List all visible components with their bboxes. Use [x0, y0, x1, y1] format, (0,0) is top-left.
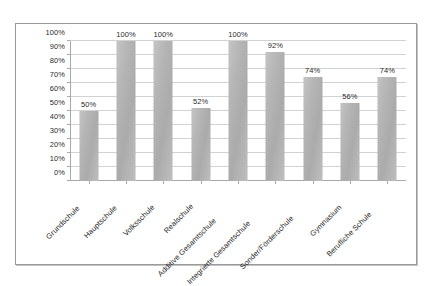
y-axis-tick-label: 70%	[50, 70, 65, 79]
x-axis-tick-mark	[89, 181, 90, 184]
y-axis-tick-label: 80%	[50, 56, 65, 65]
bar-slot: 100%Hauptschule	[107, 41, 144, 181]
x-axis-tick-mark	[238, 181, 239, 184]
bar-value-label: 56%	[342, 92, 357, 101]
bar-value-label: 52%	[193, 97, 208, 106]
bar-value-label: 100%	[154, 30, 174, 39]
y-axis-tick-label: 40%	[50, 112, 65, 121]
bar[interactable]	[116, 41, 135, 181]
bar-slot: 56%Gymnasium	[331, 41, 368, 181]
y-axis-tick-label: 0%	[54, 168, 65, 177]
x-axis-category-label-text: Realschule	[162, 202, 195, 235]
bar-slot: 100%Additive Gesamtschule	[219, 41, 256, 181]
x-axis-tick-mark	[201, 181, 202, 184]
x-axis-tick-mark	[275, 181, 276, 184]
bar-slot: 74%Berufliche Schule	[369, 41, 406, 181]
x-axis-category-label-text: Hauptschule	[82, 204, 119, 241]
bar-slot: 100%Volksschule	[145, 41, 182, 181]
y-axis-tick-label: 10%	[50, 154, 65, 163]
x-axis-tick-mark	[350, 181, 351, 184]
bar[interactable]	[266, 52, 285, 181]
bar-slot: 52%Realschule	[182, 41, 219, 181]
bar-value-label: 74%	[380, 66, 395, 75]
bar[interactable]	[340, 103, 359, 181]
bar[interactable]	[79, 111, 98, 181]
y-axis-tick-label: 90%	[50, 42, 65, 51]
bar[interactable]	[378, 77, 397, 181]
y-axis-tick-label: 20%	[50, 140, 65, 149]
bar-value-label: 74%	[305, 66, 320, 75]
plot-area: 100%90%80%70%60%50%40%30%20%10%0% 50%Gru…	[70, 41, 406, 181]
x-axis-tick-mark	[163, 181, 164, 184]
bar[interactable]	[228, 41, 247, 181]
x-axis-category-label-text: Volksschule	[122, 203, 157, 238]
bar-value-label: 100%	[116, 30, 136, 39]
bar-value-label: 92%	[268, 41, 283, 50]
x-axis-category-label-text: Gymnasium	[308, 203, 343, 238]
bar-value-label: 100%	[228, 30, 248, 39]
x-axis-category-label-text: Grundschule	[44, 204, 81, 241]
chart-card: 100%90%80%70%60%50%40%30%20%10%0% 50%Gru…	[15, 23, 417, 265]
bar-slot: 50%Grundschule	[70, 41, 107, 181]
y-axis-tick-label: 100%	[45, 28, 65, 37]
bar-value-label: 50%	[81, 100, 96, 109]
bar[interactable]	[303, 77, 322, 181]
x-axis-category-label-text: Integrierte Gesamtschule	[185, 219, 252, 286]
y-axis-tick-label: 30%	[50, 126, 65, 135]
y-axis-tick-label: 50%	[50, 98, 65, 107]
bar-slot: 74%Sonder/Förderschule	[294, 41, 331, 181]
bar-slot: 92%Integrierte Gesamtschule	[257, 41, 294, 181]
bar[interactable]	[191, 108, 210, 181]
y-axis-tick-label: 60%	[50, 84, 65, 93]
x-axis-tick-mark	[313, 181, 314, 184]
bar[interactable]	[154, 41, 173, 181]
x-axis-tick-mark	[126, 181, 127, 184]
bars-group: 50%Grundschule100%Hauptschule100%Volkssc…	[70, 41, 406, 181]
x-axis-tick-mark	[387, 181, 388, 184]
